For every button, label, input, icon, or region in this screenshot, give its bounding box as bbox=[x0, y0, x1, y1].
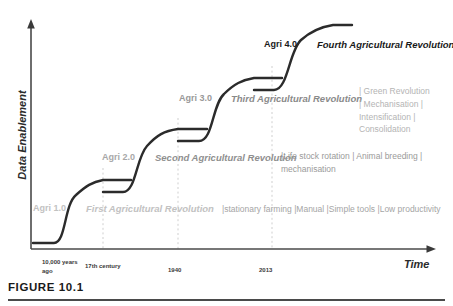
caption-divider bbox=[8, 299, 445, 301]
era-revolution-first: First Agricultural Revolution bbox=[86, 203, 214, 215]
era-revolution-fourth: Fourth Agricultural Revolution bbox=[317, 39, 453, 51]
era-features-agri-2: |Life stock rotation | Animal breeding |… bbox=[281, 150, 422, 176]
x-tick-1940: 1940 bbox=[168, 266, 208, 275]
figure-caption: FIGURE 10.1 bbox=[8, 281, 84, 293]
era-label-agri-1: Agri 1.0 bbox=[33, 203, 66, 215]
era-label-agri-3: Agri 3.0 bbox=[179, 93, 212, 105]
era-features-agri-1: |stationary farming |Manual |Simple tool… bbox=[222, 203, 441, 216]
x-tick-17th-century: 17th century bbox=[85, 262, 145, 271]
x-axis bbox=[31, 245, 436, 253]
era-revolution-third: Third Agricultural Revolution bbox=[231, 93, 362, 105]
era-label-agri-4: Agri 4.0 bbox=[264, 39, 297, 51]
era-revolution-second: Second Agricultural Revolution bbox=[155, 152, 297, 164]
y-axis-label: Data Enablement bbox=[15, 80, 29, 190]
figure-container: Data Enablement Time 10,000 years ago 17… bbox=[0, 0, 453, 306]
era-label-agri-2: Agri 2.0 bbox=[102, 152, 135, 164]
x-axis-label: Time bbox=[404, 257, 429, 271]
x-tick-2013: 2013 bbox=[259, 266, 299, 275]
era-features-agri-3: | Green Revolution | Mechanisation | Int… bbox=[359, 85, 430, 136]
